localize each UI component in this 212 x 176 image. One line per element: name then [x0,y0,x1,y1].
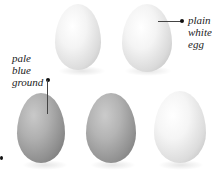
egg-bottom-left [17,93,65,163]
egg-top-right [122,4,172,72]
pointer-line [47,80,48,114]
egg-illustration: plain white egg pale blue ground [0,0,212,176]
label-pale-blue-ground: pale blue ground [12,52,43,88]
pointer-dot [180,19,184,23]
pointer-line [158,21,181,22]
egg-bottom-right [154,91,206,163]
egg-top-left [55,4,101,70]
label-plain-white-egg: plain white egg [188,14,212,50]
pointer-dot [0,156,3,160]
egg-bottom-middle [86,93,136,163]
